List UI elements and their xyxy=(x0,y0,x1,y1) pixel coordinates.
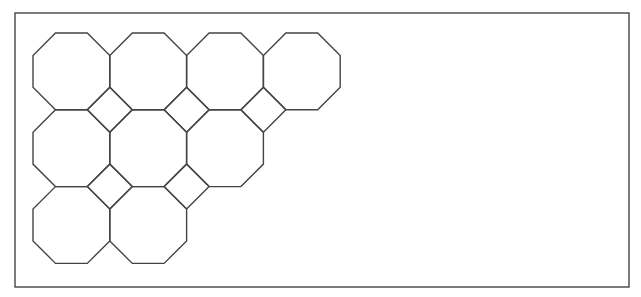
square-shape xyxy=(87,87,132,132)
square-shape xyxy=(241,87,286,132)
square-shape xyxy=(87,164,132,209)
square-shape xyxy=(164,87,209,132)
tiling-diagram xyxy=(0,0,641,297)
diagram-canvas xyxy=(0,0,641,297)
octagon-group xyxy=(33,33,340,263)
square-shape xyxy=(164,164,209,209)
diagram-frame xyxy=(15,13,629,287)
